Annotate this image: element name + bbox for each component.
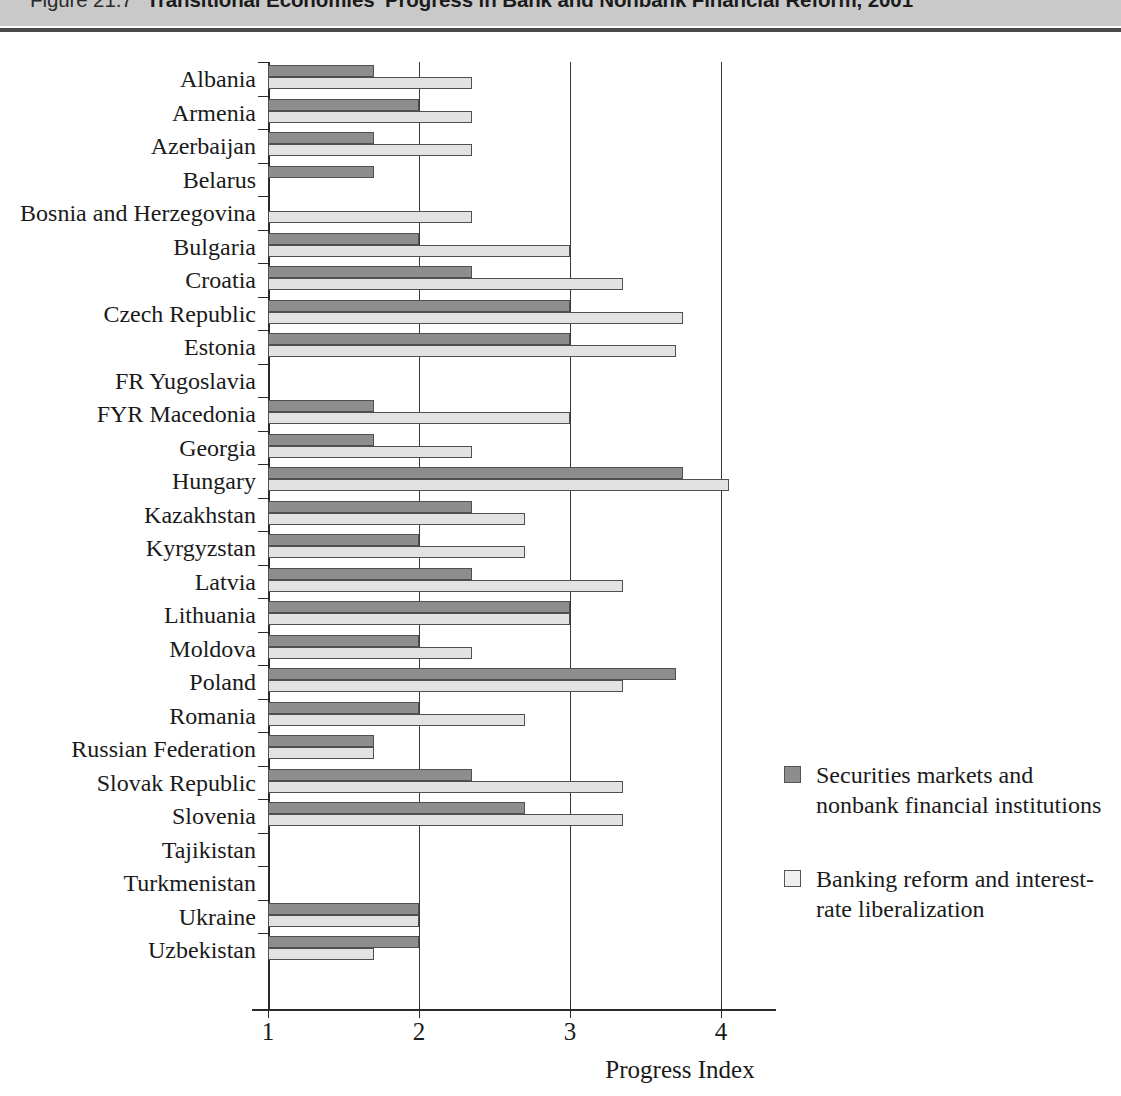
x-tick-1 [268, 1002, 269, 1018]
legend-label-securities: Securities markets and nonbank financial… [816, 760, 1114, 820]
country-label: Kazakhstan [144, 501, 256, 529]
y-tick [258, 464, 270, 465]
bar-row: Kyrgyzstan [0, 531, 1121, 565]
country-label: Azerbaijan [151, 132, 256, 160]
bar-row: Czech Republic [0, 297, 1121, 331]
y-tick [258, 62, 270, 63]
bar-securities [268, 166, 374, 178]
bar-row: Romania [0, 699, 1121, 733]
bar-row: Estonia [0, 330, 1121, 364]
country-label: Ukraine [179, 903, 256, 931]
country-label: Georgia [179, 434, 256, 462]
y-tick [258, 297, 270, 298]
country-label: Croatia [185, 266, 256, 294]
bar-banking [268, 714, 525, 726]
bar-securities [268, 769, 472, 781]
y-tick [258, 665, 270, 666]
x-tick-2 [419, 1002, 420, 1018]
bar-securities [268, 735, 374, 747]
bar-banking [268, 77, 472, 89]
bar-row: Croatia [0, 263, 1121, 297]
y-tick [258, 900, 270, 901]
y-tick [258, 364, 270, 365]
bar-row: Kazakhstan [0, 498, 1121, 532]
bar-securities [268, 300, 570, 312]
x-tick-label-4: 4 [701, 1018, 741, 1046]
bar-banking [268, 245, 570, 257]
country-label: Armenia [172, 99, 256, 127]
bar-banking [268, 546, 525, 558]
bar-row: Belarus [0, 163, 1121, 197]
bar-banking [268, 613, 570, 625]
bar-row: FR Yugoslavia [0, 364, 1121, 398]
figure-title-text: Transitional Economies' Progress in Bank… [147, 0, 913, 11]
bar-securities [268, 99, 419, 111]
bar-banking [268, 278, 623, 290]
country-label: Hungary [172, 467, 256, 495]
y-tick [258, 531, 270, 532]
bar-securities [268, 266, 472, 278]
y-tick [258, 230, 270, 231]
x-tick-label-2: 2 [399, 1018, 439, 1046]
y-tick [258, 163, 270, 164]
bar-securities [268, 903, 419, 915]
chart-container: 1234 AlbaniaArmeniaAzerbaijanBelarusBosn… [0, 40, 1121, 1096]
bar-securities [268, 702, 419, 714]
bar-securities [268, 65, 374, 77]
bar-row: Georgia [0, 431, 1121, 465]
y-tick [258, 431, 270, 432]
bar-securities [268, 400, 374, 412]
bar-banking [268, 781, 623, 793]
bar-securities [268, 936, 419, 948]
y-tick [258, 565, 270, 566]
chart-legend: Securities markets and nonbank financial… [784, 760, 1114, 968]
country-label: Uzbekistan [148, 936, 256, 964]
bar-row: Armenia [0, 96, 1121, 130]
legend-label-banking: Banking reform and interest-rate liberal… [816, 864, 1114, 924]
bar-securities [268, 467, 683, 479]
bar-banking [268, 747, 374, 759]
country-label: Bosnia and Herzegovina [20, 199, 256, 227]
bar-row: Bulgaria [0, 230, 1121, 264]
dark-gray-swatch-icon [784, 766, 801, 783]
country-label: Romania [169, 702, 256, 730]
x-tick-3 [570, 1002, 571, 1018]
y-tick [258, 129, 270, 130]
bar-securities [268, 568, 472, 580]
bar-banking [268, 680, 623, 692]
bar-banking [268, 412, 570, 424]
country-label: FR Yugoslavia [115, 367, 256, 395]
bar-row: Moldova [0, 632, 1121, 666]
y-tick [258, 699, 270, 700]
country-label: Tajikistan [162, 836, 256, 864]
bar-banking [268, 312, 683, 324]
y-tick [258, 397, 270, 398]
bar-row: Azerbaijan [0, 129, 1121, 163]
bar-securities [268, 802, 525, 814]
bar-row: Hungary [0, 464, 1121, 498]
bar-banking [268, 345, 676, 357]
y-tick [258, 732, 270, 733]
country-label: Lithuania [164, 601, 256, 629]
bar-banking [268, 111, 472, 123]
bar-securities [268, 635, 419, 647]
bar-securities [268, 233, 419, 245]
bar-securities [268, 534, 419, 546]
figure-header-title: Figure 21.7Transitional Economies' Progr… [30, 0, 913, 12]
country-label: Turkmenistan [124, 869, 256, 897]
y-tick [258, 632, 270, 633]
country-label: Slovak Republic [97, 769, 256, 797]
bar-securities [268, 501, 472, 513]
country-label: Moldova [169, 635, 256, 663]
bar-row: Albania [0, 62, 1121, 96]
x-tick-label-3: 3 [550, 1018, 590, 1046]
country-label: Latvia [195, 568, 256, 596]
y-tick [258, 498, 270, 499]
bar-banking [268, 948, 374, 960]
country-label: Russian Federation [71, 735, 256, 763]
country-label: Bulgaria [173, 233, 256, 261]
y-tick [258, 96, 270, 97]
country-label: Albania [180, 65, 256, 93]
y-tick [258, 330, 270, 331]
bar-row: Lithuania [0, 598, 1121, 632]
